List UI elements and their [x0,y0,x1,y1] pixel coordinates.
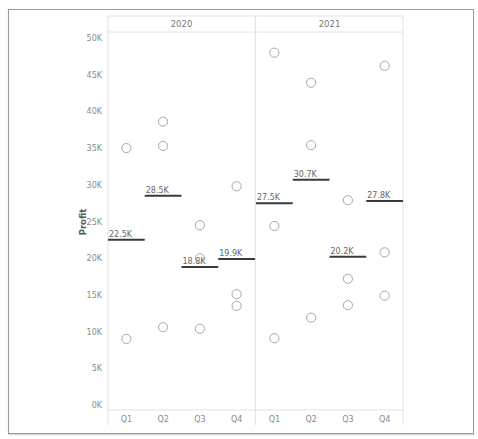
reference-line-label: 27.5K [257,193,281,202]
data-point[interactable] [343,301,352,310]
y-tick-label: 50K [87,34,103,43]
x-tick-label: Q1 [269,415,280,424]
data-point[interactable] [380,61,389,70]
panel-header-2020: 2020 [171,19,193,29]
y-tick-label: 35K [87,144,103,153]
data-point[interactable] [159,323,168,332]
data-point[interactable] [122,334,131,343]
data-point[interactable] [270,334,279,343]
x-tick-label: Q4 [379,415,390,424]
x-tick-label: Q1 [121,415,132,424]
data-point[interactable] [232,182,241,191]
y-tick-label: 5K [92,364,103,373]
data-point[interactable] [159,117,168,126]
data-point[interactable] [270,221,279,230]
x-tick-label: Q3 [194,415,205,424]
reference-line-label: 27.8K [367,191,391,200]
y-tick-label: 40K [87,107,103,116]
data-point[interactable] [380,291,389,300]
reference-line-label: 22.5K [109,230,133,239]
reference-line-label: 30.7K [294,170,318,179]
data-point[interactable] [232,290,241,299]
y-axis: 0K5K10K15K20K25K30K35K40K45K50K [87,34,103,410]
y-tick-label: 45K [87,71,103,80]
data-point[interactable] [159,141,168,150]
plot-panels: 22.5K28.5K18.8K19.9K27.5K30.7K20.2K27.8K [108,16,403,425]
reference-line-label: 20.2K [331,247,355,256]
data-point[interactable] [232,301,241,310]
data-point[interactable] [122,144,131,153]
chart-canvas: 20202021 0K5K10K15K20K25K30K35K40K45K50K… [0,0,478,439]
data-point[interactable] [195,221,204,230]
data-point[interactable] [307,313,316,322]
data-point[interactable] [195,324,204,333]
data-point[interactable] [343,274,352,283]
y-tick-label: 25K [87,218,103,227]
x-tick-label: Q2 [305,415,316,424]
y-axis-title-text: Profit [78,209,88,236]
x-tick-label: Q2 [157,415,168,424]
y-tick-label: 0K [92,401,103,410]
y-tick-label: 15K [87,291,103,300]
reference-line-label: 19.9K [219,249,243,258]
reference-line-label: 28.5K [146,186,170,195]
panel-2021: 27.5K30.7K20.2K27.8K [256,48,403,343]
data-point[interactable] [307,78,316,87]
panel-2020: 22.5K28.5K18.8K19.9K [108,117,255,343]
x-tick-label: Q3 [342,415,353,424]
data-point[interactable] [343,196,352,205]
y-tick-label: 20K [87,254,103,263]
data-point[interactable] [380,248,389,257]
panel-header-2021: 2021 [319,19,341,29]
y-tick-label: 30K [87,181,103,190]
y-tick-label: 10K [87,328,103,337]
y-axis-title: Profit [78,209,88,236]
x-tick-label: Q4 [231,415,242,424]
data-point[interactable] [307,141,316,150]
data-point[interactable] [270,48,279,57]
